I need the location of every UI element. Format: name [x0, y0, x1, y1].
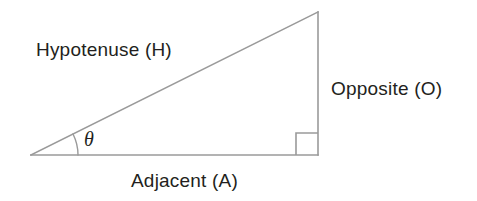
triangle-figure: [0, 0, 477, 201]
opposite-label: Opposite (O): [331, 79, 442, 98]
right-angle-marker: [296, 133, 318, 155]
angle-arc: [73, 134, 78, 155]
trigonometry-triangle-diagram: Hypotenuse (H) Opposite (O) Adjacent (A)…: [0, 0, 477, 201]
hypotenuse-side-line: [31, 12, 318, 155]
adjacent-label: Adjacent (A): [131, 171, 238, 190]
hypotenuse-label: Hypotenuse (H): [36, 40, 172, 59]
theta-angle-label: θ: [84, 129, 94, 149]
